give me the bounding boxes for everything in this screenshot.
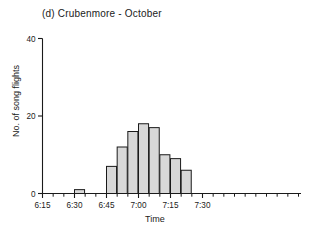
y-tick-label: 0 bbox=[31, 190, 36, 199]
y-tick-label: 20 bbox=[26, 112, 36, 121]
x-tick-label: 6:30 bbox=[67, 201, 83, 210]
bars-group bbox=[75, 124, 192, 194]
bar bbox=[171, 159, 181, 194]
bar bbox=[149, 128, 159, 194]
x-tick-label: 6:45 bbox=[99, 201, 115, 210]
bar bbox=[117, 147, 127, 194]
plot-area: 020406:156:306:457:007:157:30 bbox=[0, 0, 322, 238]
chart-figure: (d) Crubenmore - October No. of song fli… bbox=[0, 0, 322, 238]
x-tick-label: 7:00 bbox=[131, 201, 147, 210]
bar bbox=[75, 190, 85, 194]
bar bbox=[128, 132, 138, 194]
x-tick-label: 6:15 bbox=[35, 201, 51, 210]
x-tick-label: 7:15 bbox=[163, 201, 179, 210]
bar bbox=[181, 170, 191, 193]
bar bbox=[160, 155, 170, 194]
x-tick-label: 7:30 bbox=[195, 201, 211, 210]
y-tick-label: 40 bbox=[26, 35, 36, 44]
bar bbox=[139, 124, 149, 194]
bar bbox=[107, 166, 117, 193]
